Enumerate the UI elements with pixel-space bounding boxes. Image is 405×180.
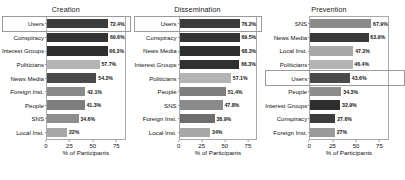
- chart-panel-dissemination: Dissemination Users76.2%Conspiracy69.5%N…: [132, 0, 264, 180]
- bar-value-label: 34.3%: [343, 89, 358, 95]
- plot-wrapper: SNS67.9%News Media63.9%Local Inst.47.3%P…: [263, 16, 395, 140]
- bar-row: People41.3%: [47, 98, 125, 112]
- x-tick-label: 0: [308, 142, 311, 150]
- bar-value-label: 32.9%: [342, 102, 357, 108]
- bar-row: SNS47.8%: [180, 98, 257, 112]
- bar: [180, 46, 240, 55]
- x-axis-tick: 75: [376, 140, 383, 150]
- bar: [180, 73, 231, 82]
- bar: [310, 33, 368, 42]
- category-label: Foreign Inst.: [273, 129, 307, 136]
- chart-panel-prevention: Prevention SNS67.9%News Media63.9%Local …: [263, 0, 395, 180]
- bar-value-label: 46.4%: [354, 61, 369, 67]
- bar-track: 38.9%: [180, 114, 257, 123]
- x-axis-tick: 25: [66, 140, 73, 150]
- bar-rows: Users72.4%Conspiracy69.6%Interest Groups…: [47, 17, 125, 139]
- x-axis-tick: 0: [177, 140, 180, 150]
- bar: [47, 73, 96, 82]
- bar-value-label: 54.2%: [98, 75, 113, 81]
- bar-row: Politicians46.4%: [310, 58, 388, 72]
- category-label: Local Inst.: [16, 129, 44, 136]
- bar-row: Interest Groups66.3%: [47, 44, 125, 58]
- bar-row: SNS34.6%: [47, 112, 125, 126]
- bar: [310, 46, 353, 55]
- bar-track: 54.2%: [47, 73, 125, 82]
- bar-value-label: 69.5%: [241, 34, 256, 40]
- plot-wrapper: Users76.2%Conspiracy69.5%News Media68.3%…: [132, 16, 264, 140]
- bar-value-label: 72.4%: [110, 21, 125, 27]
- bar-value-label: 66.3%: [241, 61, 256, 67]
- x-axis-tick: 75: [113, 140, 120, 150]
- bar-value-label: 76.2%: [241, 21, 256, 27]
- category-label: People: [288, 88, 307, 95]
- x-axis-tick: 0: [44, 140, 47, 150]
- category-label: Local Inst.: [149, 129, 177, 136]
- category-label: Interest Groups: [2, 47, 44, 54]
- bar-track: 41.3%: [47, 100, 125, 109]
- category-label: Politicians: [17, 61, 44, 68]
- bar: [180, 128, 211, 137]
- bar-rows: Users76.2%Conspiracy69.5%News Media68.3%…: [180, 17, 257, 139]
- bar: [180, 87, 226, 96]
- bar-row: Foreign Inst.27%: [310, 126, 388, 140]
- bar-track: 47.8%: [180, 100, 257, 109]
- bar-value-label: 68.3%: [241, 48, 256, 54]
- bar-value-label: 63.9%: [370, 34, 385, 40]
- bar-value-label: 66.3%: [109, 48, 124, 54]
- bar-track: 76.2%: [180, 19, 257, 28]
- bar-track: 27.6%: [310, 114, 388, 123]
- bar-row: News Media68.3%: [180, 44, 257, 58]
- bar-row: Local Inst.22%: [47, 126, 125, 140]
- bar: [310, 73, 350, 82]
- bar-row: Foreign Inst.42.1%: [47, 85, 125, 99]
- x-tick-label: 50: [353, 142, 360, 150]
- bar-row: SNS67.9%: [310, 17, 388, 31]
- bar-track: 27%: [310, 128, 388, 137]
- bar-value-label: 34.6%: [80, 116, 95, 122]
- category-label: People: [25, 102, 44, 109]
- bar-row: Users76.2%: [180, 17, 257, 31]
- category-label: Foreign Inst.: [10, 88, 44, 95]
- bar-row: People51.4%: [180, 85, 257, 99]
- bar: [180, 114, 215, 123]
- bar-value-label: 42.1%: [87, 89, 102, 95]
- bar: [310, 87, 341, 96]
- bar-track: 72.4%: [47, 19, 125, 28]
- bar-row: News Media54.2%: [47, 71, 125, 85]
- x-tick-label: 0: [44, 142, 47, 150]
- bar-row: Conspiracy27.6%: [310, 112, 388, 126]
- bar-value-label: 47.8%: [224, 102, 239, 108]
- x-axis-ticks: 0255075: [309, 140, 389, 148]
- bar-row: Local Inst.47.3%: [310, 44, 388, 58]
- bar-track: 42.1%: [47, 87, 125, 96]
- bar-track: 63.9%: [310, 33, 388, 42]
- category-label: Politicians: [280, 61, 307, 68]
- plot-wrapper: Users72.4%Conspiracy69.6%Interest Groups…: [0, 16, 132, 140]
- bar: [47, 33, 108, 42]
- bar-value-label: 67.9%: [373, 21, 388, 27]
- bar-track: 34.6%: [47, 114, 125, 123]
- bar-track: 34.3%: [310, 87, 388, 96]
- category-label: SNS: [164, 102, 177, 109]
- bar-value-label: 57.7%: [101, 61, 116, 67]
- x-axis: 0255075 % of Participants: [179, 140, 258, 157]
- bar: [310, 100, 340, 109]
- x-tick-label: 50: [89, 142, 96, 150]
- bar-value-label: 69.6%: [110, 34, 125, 40]
- category-label: Conspiracy: [14, 34, 44, 41]
- bar-track: 67.9%: [310, 19, 388, 28]
- panel-title: Prevention: [263, 0, 395, 14]
- category-label: Users: [161, 20, 177, 27]
- bar: [180, 19, 240, 28]
- bar-track: 68.3%: [180, 46, 257, 55]
- bar: [47, 19, 108, 28]
- bar-value-label: 22%: [69, 129, 79, 135]
- bar-row: Politicians57.7%: [47, 58, 125, 72]
- category-label: Politicians: [149, 75, 176, 82]
- bar-row: Interest Groups32.9%: [310, 98, 388, 112]
- category-label: Users: [28, 20, 44, 27]
- x-axis-tick: 25: [198, 140, 205, 150]
- x-tick-label: 0: [177, 142, 180, 150]
- bar-value-label: 51.4%: [228, 89, 243, 95]
